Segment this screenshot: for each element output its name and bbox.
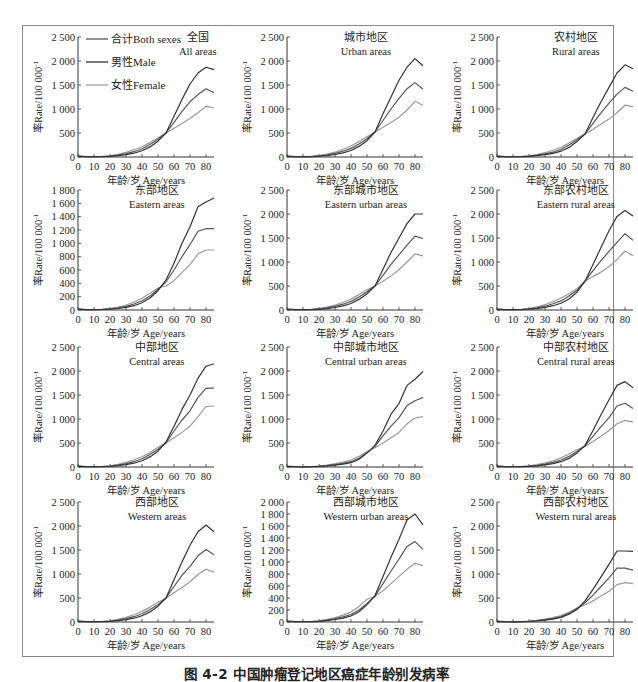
- y-axis-label: 率Rate/100 000-1: [451, 370, 463, 443]
- x-tick-label: 10: [89, 314, 100, 325]
- y-tick-label: 1 400: [260, 533, 284, 544]
- panel-title: 农村地区: [554, 30, 598, 43]
- x-tick-label: 20: [105, 314, 116, 325]
- x-tick-label: 0: [284, 471, 289, 482]
- chart-panel-10: 05001 0001 5002 0002 5000102030405060708…: [18, 490, 229, 655]
- y-tick-label: 1 600: [260, 521, 284, 532]
- x-tick-label: 60: [378, 314, 389, 325]
- y-tick-label: 0: [70, 152, 75, 163]
- y-tick-label: 1 500: [51, 545, 75, 556]
- y-tick-label: 2 000: [470, 521, 494, 532]
- x-tick-label: 70: [604, 471, 615, 482]
- chart-svg: 02004006008001 0001 2001 4001 6001 80001…: [18, 178, 229, 343]
- x-tick-label: 60: [588, 626, 599, 637]
- x-tick-label: 10: [298, 161, 309, 172]
- x-tick-label: 50: [362, 161, 373, 172]
- y-tick-label: 1 200: [260, 545, 284, 556]
- y-tick-label: 600: [59, 265, 75, 276]
- x-tick-label: 50: [362, 471, 373, 482]
- y-tick-label: 2 500: [260, 32, 284, 43]
- x-tick-label: 10: [89, 471, 100, 482]
- y-tick-label: 500: [59, 438, 75, 449]
- y-tick-label: 0: [489, 305, 494, 316]
- x-axis-label: 年龄/岁 Age/years: [316, 639, 394, 651]
- x-tick-label: 40: [346, 314, 357, 325]
- y-tick-label: 2 500: [470, 342, 494, 353]
- x-tick-label: 0: [75, 314, 80, 325]
- y-axis-label: 率Rate/100 000-1: [241, 525, 253, 598]
- x-tick-label: 70: [185, 314, 196, 325]
- panel-title: 东部农村地区: [543, 183, 609, 196]
- x-tick-label: 70: [394, 626, 405, 637]
- y-tick-label: 1 000: [470, 104, 494, 115]
- y-tick-label: 1 500: [260, 233, 284, 244]
- chart-svg: 05001 0001 5002 0002 5000102030405060708…: [437, 25, 638, 190]
- series-line-male: [78, 364, 214, 467]
- x-tick-label: 30: [540, 471, 551, 482]
- x-tick-label: 80: [620, 471, 631, 482]
- chart-svg: 05001 0001 5002 0002 5000102030405060708…: [437, 335, 638, 500]
- x-tick-label: 80: [620, 626, 631, 637]
- x-tick-label: 50: [572, 626, 583, 637]
- series-line-both: [497, 87, 633, 156]
- y-tick-label: 1 500: [470, 233, 494, 244]
- x-tick-label: 0: [494, 314, 499, 325]
- y-tick-label: 1 000: [51, 238, 75, 249]
- chart-svg: 02004006008001 0001 2001 4001 6001 8002 …: [227, 490, 438, 655]
- y-tick-label: 0: [70, 617, 75, 628]
- chart-svg: 05001 0001 5002 0002 5000102030405060708…: [227, 25, 438, 190]
- chart-svg: 05001 0001 5002 0002 5000102030405060708…: [437, 490, 638, 655]
- y-tick-label: 2 000: [470, 366, 494, 377]
- series-line-both: [287, 397, 423, 466]
- y-tick-label: 1 000: [260, 104, 284, 115]
- y-tick-label: 500: [478, 281, 494, 292]
- y-tick-label: 2 500: [51, 497, 75, 508]
- y-axis-label: 率Rate/100 000-1: [451, 213, 463, 286]
- x-tick-label: 30: [121, 314, 132, 325]
- y-tick-label: 2 000: [51, 56, 75, 67]
- series-line-male: [497, 65, 633, 157]
- x-tick-label: 60: [588, 161, 599, 172]
- x-tick-label: 10: [298, 314, 309, 325]
- y-tick-label: 1 500: [260, 80, 284, 91]
- y-tick-label: 0: [279, 305, 284, 316]
- y-tick-label: 2 000: [470, 209, 494, 220]
- y-tick-label: 0: [279, 462, 284, 473]
- y-tick-label: 200: [59, 291, 75, 302]
- x-tick-label: 30: [121, 471, 132, 482]
- panel-title: 西部农村地区: [543, 495, 609, 508]
- panel-title: 西部地区: [135, 495, 179, 508]
- x-axis-label: 年龄/岁 Age/years: [107, 639, 185, 651]
- x-tick-label: 60: [378, 471, 389, 482]
- panel-subtitle: All areas: [179, 46, 217, 57]
- y-tick-label: 1 600: [51, 198, 75, 209]
- y-tick-label: 1 000: [51, 414, 75, 425]
- x-tick-label: 10: [508, 161, 519, 172]
- y-tick-label: 400: [59, 278, 75, 289]
- y-tick-label: 400: [268, 593, 284, 604]
- chart-panel-3: 05001 0001 5002 0002 5000102030405060708…: [437, 25, 638, 190]
- panel-subtitle: Eastern areas: [129, 199, 185, 210]
- x-tick-label: 10: [508, 626, 519, 637]
- x-tick-label: 0: [284, 314, 289, 325]
- x-tick-label: 70: [394, 314, 405, 325]
- y-tick-label: 200: [268, 605, 284, 616]
- x-tick-label: 80: [410, 314, 421, 325]
- x-tick-label: 80: [620, 161, 631, 172]
- chart-svg: 05001 0001 5002 0002 5000102030405060708…: [227, 335, 438, 500]
- y-tick-label: 500: [59, 593, 75, 604]
- x-tick-label: 10: [298, 471, 309, 482]
- chart-panel-12: 05001 0001 5002 0002 5000102030405060708…: [437, 490, 638, 655]
- y-tick-label: 1 500: [470, 80, 494, 91]
- x-tick-label: 40: [556, 626, 567, 637]
- chart-panel-11: 02004006008001 0001 2001 4001 6001 8002 …: [227, 490, 438, 655]
- x-tick-label: 60: [169, 471, 180, 482]
- y-tick-label: 1 500: [470, 545, 494, 556]
- series-line-both: [497, 403, 633, 467]
- y-tick-label: 2 500: [470, 32, 494, 43]
- y-tick-label: 1 800: [260, 509, 284, 520]
- x-tick-label: 40: [556, 314, 567, 325]
- x-tick-label: 0: [75, 161, 80, 172]
- x-tick-label: 0: [284, 161, 289, 172]
- panel-title: 东部地区: [135, 183, 179, 196]
